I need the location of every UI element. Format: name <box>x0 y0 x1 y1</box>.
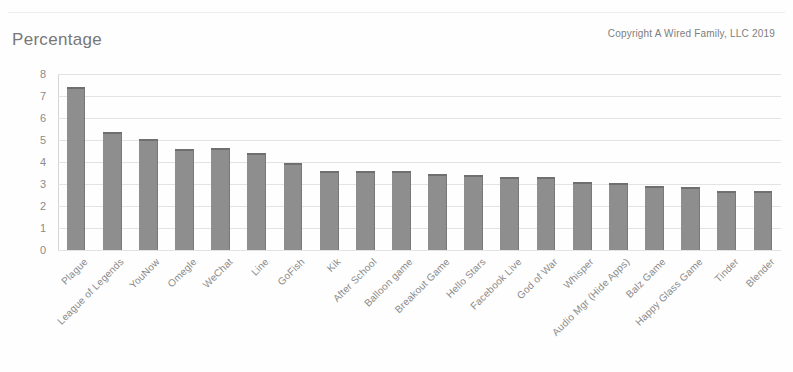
bar <box>175 149 194 250</box>
y-axis-tick-label: 2 <box>40 200 46 212</box>
category-label: Plague <box>59 256 90 287</box>
category-label: GoFish <box>275 256 306 287</box>
cut-off-page-title <box>0 0 793 9</box>
category-label: Tinder <box>712 256 740 284</box>
bar <box>103 132 122 250</box>
chart-title: Percentage <box>12 30 102 50</box>
category-label: Kik <box>325 256 343 274</box>
category-label: Happy Glass Game <box>633 256 705 328</box>
gridline: 3 <box>58 184 781 185</box>
bar <box>284 163 303 250</box>
bar <box>717 191 736 250</box>
bar <box>681 187 700 250</box>
y-axis-tick-label: 3 <box>40 178 46 190</box>
category-label: League of Legends <box>55 256 126 327</box>
gridline: 4 <box>58 162 781 163</box>
y-axis-tick-label: 7 <box>40 90 46 102</box>
copyright-notice: Copyright A Wired Family, LLC 2019 <box>608 28 775 39</box>
gridline: 7 <box>58 96 781 97</box>
gridline: 5 <box>58 140 781 141</box>
bar-chart-plot-area: 012345678 <box>58 74 781 250</box>
category-label: Line <box>249 256 271 278</box>
bar <box>645 186 664 250</box>
y-axis-tick-label: 8 <box>40 68 46 80</box>
scanned-page: Percentage Copyright A Wired Family, LLC… <box>0 0 793 372</box>
gridline: 0 <box>58 250 781 251</box>
y-axis-tick-label: 6 <box>40 112 46 124</box>
bar <box>609 183 628 250</box>
bar <box>67 87 86 250</box>
category-label: WeChat <box>200 256 234 290</box>
category-label: Omegle <box>165 256 198 289</box>
bar <box>139 139 158 250</box>
bar <box>320 171 339 250</box>
bar <box>754 191 773 250</box>
bar <box>500 177 519 250</box>
category-label: Blender <box>744 256 777 289</box>
bar <box>428 174 447 250</box>
gridline: 8 <box>58 74 781 75</box>
category-label: Whisper <box>561 256 596 291</box>
bar <box>247 153 266 250</box>
y-axis-tick-label: 1 <box>40 222 46 234</box>
y-axis-tick-label: 5 <box>40 134 46 146</box>
gridline: 1 <box>58 228 781 229</box>
bar <box>573 182 592 250</box>
y-axis-tick-label: 0 <box>40 244 46 256</box>
category-label: YouNow <box>127 256 162 291</box>
bar <box>392 171 411 250</box>
gridline: 2 <box>58 206 781 207</box>
gridline: 6 <box>58 118 781 119</box>
horizontal-rule <box>8 12 785 13</box>
y-axis-tick-label: 4 <box>40 156 46 168</box>
bar <box>464 175 483 250</box>
bar <box>537 177 556 250</box>
category-axis-labels: PlagueLeague of LegendsYouNowOmegleWeCha… <box>58 252 781 370</box>
bar <box>211 148 230 250</box>
bar <box>356 171 375 250</box>
